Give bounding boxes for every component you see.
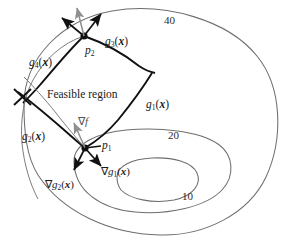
gradient-label-g2-index: 2 <box>58 184 62 192</box>
gradient-label-g2-fn: g <box>52 178 58 190</box>
point-label-p2-index: 2 <box>91 49 95 58</box>
point-label-p2-letter: p <box>85 44 91 56</box>
constraint-label-g1-close: ) <box>165 98 169 110</box>
feasible-region-label: Feasible region <box>47 89 118 101</box>
contour-label-40: 40 <box>164 15 175 26</box>
constraint-label-g3-close: ) <box>124 35 128 47</box>
constraint-label-g4: g4(x) <box>29 57 52 69</box>
point-label-p1: p1 <box>102 140 112 152</box>
point-label-p1-index: 1 <box>108 144 112 153</box>
gradient-label-g2-nabla: ∇ <box>45 178 52 190</box>
constraint-label-g1-fn: g <box>146 98 152 110</box>
constraint-label-g2-index: 2 <box>28 135 32 144</box>
kkt-optimization-diagram: 40 20 10 g1(x) g2(x) g3(x) g4(x) p1 p2 F… <box>0 0 286 243</box>
constraint-label-g4-close: ) <box>48 56 52 68</box>
gradient-arrow-g2-at-p1 <box>74 148 85 170</box>
contour-label-10: 10 <box>182 191 193 202</box>
constraint-label-g2: g2(x) <box>22 131 45 143</box>
gradient-label-g2-close: ) <box>70 178 74 190</box>
gradient-label-g1-fn: g <box>108 165 114 177</box>
constraint-label-g4-fn: g <box>29 56 35 68</box>
constraint-label-g1: g1(x) <box>146 99 169 111</box>
point-p1-group <box>74 123 101 170</box>
contour-level-20 <box>74 129 231 213</box>
gradient-arrow-g1-at-p1 <box>85 148 101 166</box>
constraint-label-g3: g3(x) <box>105 36 128 48</box>
constraint-label-g2-close: ) <box>41 130 45 142</box>
gradient-label-f-fn: f <box>85 115 88 127</box>
gradient-label-f-nabla: ∇ <box>78 115 85 127</box>
gradient-label-g1-index: 1 <box>114 171 118 179</box>
point-p2-group <box>62 8 101 40</box>
gradient-label-f: ∇f <box>78 116 88 127</box>
gradient-arrow-g3-at-p2 <box>84 14 101 36</box>
gradient-label-g1-nabla: ∇ <box>101 165 108 177</box>
gradient-label-g1: ∇g1(x) <box>101 166 130 177</box>
gradient-label-g2: ∇g2(x) <box>45 179 74 190</box>
constraint-label-g4-index: 4 <box>35 61 39 70</box>
point-label-p1-letter: p <box>102 139 108 151</box>
diagram-canvas <box>0 0 286 243</box>
contour-label-20: 20 <box>168 130 179 141</box>
constraint-label-g3-index: 3 <box>111 40 115 49</box>
objective-contours <box>24 9 278 235</box>
constraint-label-g1-index: 1 <box>152 103 156 112</box>
constraint-label-g3-fn: g <box>105 35 111 47</box>
constraint-label-g2-fn: g <box>22 130 28 142</box>
gradient-label-g1-close: ) <box>126 165 130 177</box>
point-label-p2: p2 <box>85 45 95 57</box>
